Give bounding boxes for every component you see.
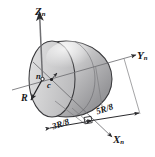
z-axis-label-subscript: n xyxy=(42,10,46,17)
x-axis-label: Xn xyxy=(113,134,124,146)
projection-line-from-y-axis xyxy=(124,59,140,115)
point-n-marker xyxy=(41,77,44,80)
radius-label: R xyxy=(21,93,28,103)
point-n-label: n xyxy=(36,72,41,81)
z-axis-label-base: Z xyxy=(35,5,42,17)
y-axis-label: Yn xyxy=(137,50,148,62)
z-axis-label: Zn xyxy=(35,6,46,18)
figure-canvas xyxy=(0,0,155,157)
hemisphere-figure: Zn Yn Xn n c R 5R/8 3R/8 xyxy=(0,0,155,157)
y-axis-label-subscript: n xyxy=(144,54,148,61)
right-angle-marker xyxy=(84,116,92,124)
point-c-label: c xyxy=(47,81,51,90)
x-axis-label-subscript: n xyxy=(120,138,124,145)
y-axis-label-base: Y xyxy=(137,49,144,61)
